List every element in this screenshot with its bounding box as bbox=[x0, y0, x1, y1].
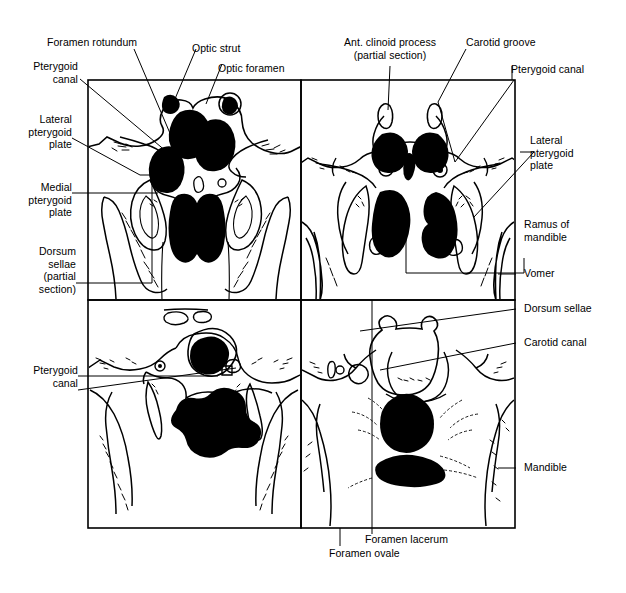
sphenoid-sinus-right-tr bbox=[412, 132, 449, 173]
label-ant-clinoid-process: Ant. clinoid process (partial section) bbox=[320, 36, 460, 61]
label-foramen-ovale: Foramen ovale bbox=[329, 547, 400, 560]
carotid-canal-dot-br bbox=[336, 366, 344, 374]
ramus-left-tl bbox=[102, 197, 167, 299]
ant-clinoid-right-tr bbox=[427, 104, 442, 129]
leader-dorsum-sellae bbox=[360, 309, 516, 331]
bone-fragment-b-bl bbox=[194, 311, 212, 322]
panel-top-right bbox=[301, 80, 515, 300]
top-bar-bl bbox=[164, 309, 208, 310]
dorsum-sellae-arch-br bbox=[370, 316, 439, 395]
anatomical-figure: Foramen rotundum Optic strut Optic foram… bbox=[0, 0, 626, 593]
basilar-inner-br bbox=[388, 352, 449, 402]
sphenoid-sinus-left-tr bbox=[371, 132, 408, 173]
upper-blob-br bbox=[380, 394, 434, 453]
bone-fragment-a-bl bbox=[164, 312, 188, 325]
petrous-right-br bbox=[456, 350, 530, 381]
optic-strut-blob-tl bbox=[162, 95, 180, 114]
label-lateral-pterygoid-plate-left: Lateral pterygoid plate bbox=[0, 113, 72, 151]
label-dorsum-sellae-partial-section: Dorsum sellae (partial section) bbox=[0, 245, 76, 295]
label-optic-foramen: Optic foramen bbox=[218, 62, 285, 75]
ramus-left-bl bbox=[90, 390, 132, 514]
label-pterygoid-canal-bottom-left: Pterygoid canal bbox=[0, 364, 78, 389]
ramus-left-br bbox=[302, 400, 331, 526]
pterygoid-loop-left-tr bbox=[342, 186, 369, 274]
label-foramen-lacerum: Foramen lacerum bbox=[365, 533, 448, 546]
ramus-right-tl bbox=[225, 197, 290, 299]
small-foramen-right-tl bbox=[218, 179, 226, 187]
pterygoid-inner-left-tl bbox=[140, 196, 159, 238]
leader-pterygoid-canal-tr3 bbox=[455, 80, 514, 162]
midline-spur-tl bbox=[194, 177, 204, 193]
optic-foramen-blob-tl bbox=[222, 96, 238, 114]
label-carotid-groove: Carotid groove bbox=[466, 36, 536, 49]
spike-left-bl bbox=[146, 382, 162, 439]
sella-blob-bl bbox=[190, 336, 229, 374]
label-medial-pterygoid-plate: Medial pterygoid plate bbox=[0, 181, 72, 219]
foramen-ovale-slit-br bbox=[328, 361, 336, 377]
ant-clinoid-left-tr bbox=[378, 104, 393, 129]
nasopharynx-left-tr bbox=[372, 190, 411, 258]
leader-ant-clinoid-process bbox=[388, 66, 390, 110]
wing-left-tr bbox=[320, 158, 376, 188]
label-vomer: Vomer bbox=[524, 267, 555, 280]
pterygoid-inner-right-tl bbox=[234, 196, 253, 238]
air-cell-left-tl bbox=[149, 146, 185, 193]
label-pterygoid-canal-top-left: Pterygoid canal bbox=[0, 60, 78, 85]
ramus-right-tr bbox=[494, 222, 514, 300]
label-lateral-pterygoid-plate-right: Lateral pterygoid plate bbox=[530, 134, 622, 172]
wing-right-tr bbox=[444, 158, 500, 188]
nasal-cavity-right-tl bbox=[192, 194, 226, 263]
label-dorsum-sellae: Dorsum sellae bbox=[524, 302, 592, 315]
nasopharynx-right-tr bbox=[422, 192, 458, 259]
lower-blob-br bbox=[375, 455, 445, 487]
ramus-left-tr bbox=[302, 222, 322, 300]
panel-bottom-left-drawing bbox=[88, 309, 318, 514]
label-optic-strut: Optic strut bbox=[192, 42, 240, 55]
label-ramus-of-mandible: Ramus of mandible bbox=[524, 218, 620, 243]
carotid-canal-outline-br bbox=[349, 364, 369, 383]
ramus-right-bl bbox=[256, 390, 298, 514]
leader-lines bbox=[72, 49, 534, 546]
panel-top-right-drawing bbox=[286, 104, 534, 300]
label-foramen-rotundum: Foramen rotundum bbox=[47, 36, 137, 49]
ramus-right-br bbox=[485, 400, 514, 526]
clivus-blob-bl bbox=[171, 388, 261, 458]
foramen-dot-left-bl bbox=[158, 364, 162, 368]
figure-drawing bbox=[0, 0, 626, 593]
label-mandible: Mandible bbox=[524, 461, 567, 474]
label-pterygoid-canal-top-right: Pterygoid canal bbox=[511, 63, 584, 76]
leader-lateral-pterygoid-plate-l bbox=[72, 138, 140, 175]
petrous-left-br bbox=[302, 350, 376, 381]
panel-top-left-drawing bbox=[87, 93, 328, 300]
label-carotid-canal: Carotid canal bbox=[524, 336, 587, 349]
